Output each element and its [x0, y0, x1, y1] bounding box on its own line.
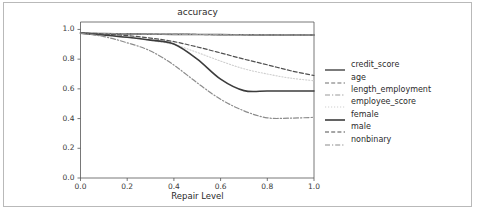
legend-item: female	[322, 109, 474, 121]
legend-line-swatch	[324, 122, 346, 132]
legend-item: employee_score	[322, 96, 474, 108]
legend-item: male	[322, 121, 474, 133]
x-tick-label: 0.4	[159, 182, 189, 191]
y-tick-label: 0.4	[49, 114, 75, 123]
legend-line-swatch	[324, 73, 346, 83]
x-tick-label: 1.0	[299, 182, 329, 191]
legend-label: male	[351, 122, 371, 132]
legend-line-swatch	[324, 85, 346, 95]
series-line	[81, 33, 315, 81]
legend-line-swatch	[324, 135, 346, 145]
x-axis-label: Repair Level	[0, 191, 395, 201]
y-tick-label: 0.0	[49, 173, 75, 182]
legend-line-swatch	[324, 97, 346, 107]
legend-label: credit_score	[351, 60, 399, 70]
y-tick-label: 0.2	[49, 143, 75, 152]
legend-line-swatch	[324, 60, 346, 70]
x-tick-label: 0.8	[252, 182, 282, 191]
legend-line-swatch	[324, 110, 346, 120]
figure-root: accuracy Repair Level 0.00.20.40.60.81.0…	[0, 0, 482, 218]
x-tick-label: 0.2	[112, 182, 142, 191]
legend-item: credit_score	[322, 59, 474, 71]
y-tick-label: 1.0	[49, 24, 75, 33]
x-tick-label: 0.6	[206, 182, 236, 191]
legend-item: nonbinary	[322, 133, 474, 145]
x-tick-label: 0.0	[66, 182, 96, 191]
y-tick-label: 0.8	[49, 54, 75, 63]
legend-item: age	[322, 71, 474, 83]
legend-label: length_employment	[351, 85, 431, 95]
legend-item: length_employment	[322, 84, 474, 96]
chart-title: accuracy	[0, 7, 395, 17]
legend-label: employee_score	[351, 97, 416, 107]
legend-label: nonbinary	[351, 135, 391, 145]
y-tick-label: 0.6	[49, 84, 75, 93]
legend-label: female	[351, 110, 379, 120]
chart-legend: credit_scoreagelength_employmentemployee…	[322, 57, 474, 148]
legend-label: age	[351, 73, 366, 83]
